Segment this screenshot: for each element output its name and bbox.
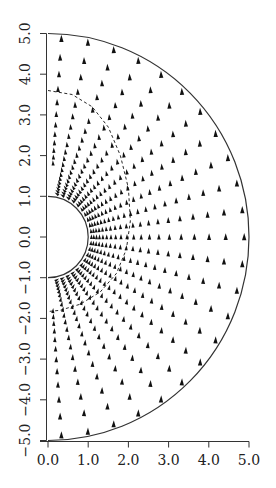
velocity-arrow	[132, 234, 135, 239]
velocity-arrow	[107, 217, 111, 222]
velocity-arrow	[109, 165, 113, 171]
velocity-arrow	[103, 280, 107, 286]
velocity-arrow	[213, 130, 218, 137]
velocity-arrow	[141, 292, 145, 298]
velocity-arrow	[61, 306, 65, 312]
x-tick-label: 2.0	[117, 452, 139, 468]
velocity-arrow	[139, 100, 143, 107]
velocity-arrow	[112, 288, 116, 294]
velocity-arrow	[98, 234, 101, 239]
velocity-arrow	[180, 88, 185, 95]
velocity-arrow	[86, 39, 90, 46]
velocity-arrow	[226, 312, 231, 319]
velocity-arrow	[59, 431, 63, 438]
velocity-arrow	[79, 185, 84, 191]
velocity-arrow	[131, 246, 135, 252]
velocity-arrow	[224, 233, 228, 240]
velocity-arrow	[113, 102, 117, 109]
velocity-arrow	[59, 35, 63, 42]
velocity-arrow	[141, 175, 145, 181]
velocity-arrow	[104, 259, 108, 265]
velocity-arrow	[100, 292, 104, 298]
velocity-arrow	[75, 152, 79, 158]
velocity-arrow	[174, 197, 178, 203]
velocity-arrow	[120, 88, 124, 95]
velocity-arrow	[159, 395, 164, 402]
velocity-arrow	[159, 71, 164, 78]
velocity-arrow	[97, 333, 101, 339]
velocity-arrow	[125, 299, 129, 305]
velocity-arrow	[79, 393, 83, 400]
velocity-arrow	[80, 137, 84, 143]
velocity-arrow	[140, 156, 144, 162]
velocity-arrow	[119, 279, 123, 285]
velocity-arrow	[53, 328, 57, 334]
velocity-arrow	[90, 234, 93, 239]
velocity-arrow	[122, 316, 126, 322]
velocity-arrow	[131, 196, 135, 202]
velocity-arrow	[73, 366, 77, 372]
velocity-arrow	[130, 354, 134, 361]
velocity-arrow	[85, 157, 89, 163]
velocity-arrow	[157, 283, 161, 289]
velocity-arrow	[153, 203, 157, 209]
velocity-arrow	[92, 240, 95, 245]
velocity-arrow	[126, 283, 130, 289]
y-tick-label: 0.0	[17, 226, 33, 248]
velocity-arrow	[184, 347, 189, 354]
velocity-arrow	[61, 161, 65, 167]
velocity-arrow	[52, 154, 55, 159]
y-tick-label: 1.0	[17, 185, 33, 207]
velocity-arrow	[139, 275, 143, 281]
velocity-arrow	[55, 368, 59, 374]
velocity-arrow	[113, 263, 117, 269]
velocity-arrow	[77, 295, 82, 301]
velocity-arrow	[99, 157, 103, 163]
velocity-arrow	[157, 234, 161, 240]
velocity-arrow	[147, 220, 151, 226]
velocity-arrow	[168, 287, 172, 293]
velocity-arrow	[125, 223, 129, 228]
velocity-arrow	[91, 299, 95, 305]
velocity-arrow	[160, 304, 164, 310]
velocity-arrow	[65, 142, 69, 148]
velocity-arrow	[201, 189, 205, 196]
velocity-arrow	[206, 256, 210, 263]
velocity-arrow	[136, 409, 141, 416]
velocity-arrow	[82, 409, 86, 416]
velocity-arrow	[110, 142, 114, 148]
velocity-arrow	[149, 319, 153, 325]
velocity-arrow	[57, 396, 61, 403]
y-tick-label: −2.0	[17, 301, 33, 335]
velocity-arrow	[131, 222, 135, 228]
velocity-arrow	[83, 339, 87, 345]
velocity-arrow	[179, 234, 183, 240]
velocity-arrow	[101, 242, 104, 247]
velocity-arrow	[80, 331, 84, 337]
velocity-arrow	[54, 356, 58, 362]
velocity-arrow	[57, 71, 61, 78]
velocity-arrow	[101, 227, 104, 232]
velocity-arrow	[95, 305, 99, 311]
velocity-arrow	[146, 342, 150, 349]
velocity-arrow	[160, 163, 164, 169]
velocity-arrow	[102, 124, 106, 130]
velocity-arrow	[111, 215, 115, 220]
velocity-arrow	[130, 112, 134, 119]
velocity-arrow	[65, 326, 69, 332]
velocity-arrow	[167, 365, 172, 372]
velocity-arrow	[67, 133, 71, 139]
velocity-arrow	[88, 269, 93, 275]
velocity-arrow	[166, 250, 170, 256]
velocity-arrow	[209, 161, 213, 168]
velocity-arrow	[118, 202, 122, 208]
velocity-arrow	[72, 309, 76, 315]
velocity-arrow	[52, 314, 55, 319]
velocity-arrow	[56, 381, 60, 387]
velocity-arrow	[97, 241, 100, 246]
x-tick-label: 4.0	[198, 452, 220, 468]
y-tick-label: −1.0	[17, 261, 33, 295]
velocity-arrow	[100, 210, 104, 216]
velocity-arrow	[148, 380, 153, 387]
velocity-arrow	[98, 277, 103, 283]
